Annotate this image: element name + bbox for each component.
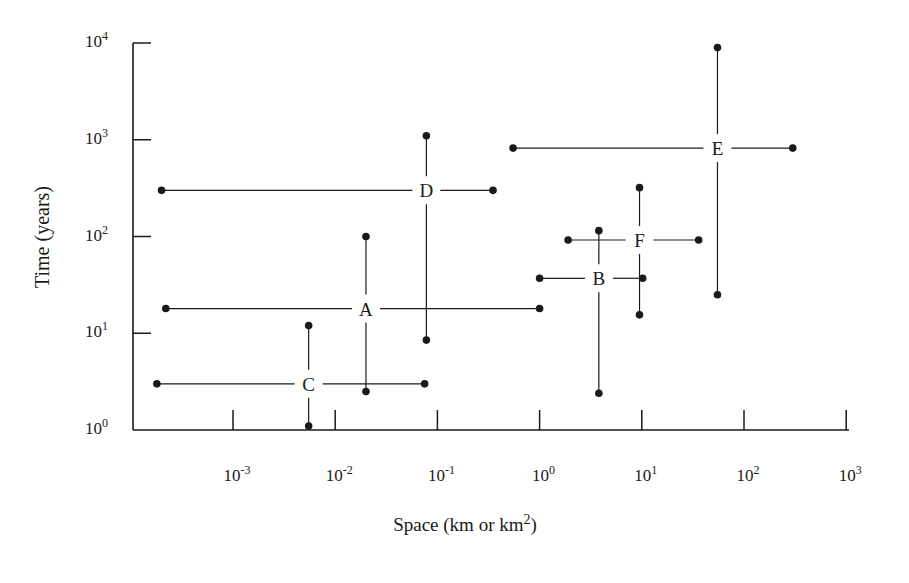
- y-tick-label: 103: [68, 126, 108, 149]
- y-tick-label: 104: [68, 29, 108, 52]
- endpoint-dot: [305, 322, 313, 330]
- x-tick-label: 101: [634, 463, 657, 486]
- endpoint-dot: [489, 187, 497, 195]
- endpoint-dot: [595, 227, 603, 235]
- y-tick-label: 102: [68, 223, 108, 246]
- endpoint-dot: [789, 144, 797, 152]
- range-cross-d: D: [158, 132, 497, 344]
- x-tick-label: 10-2: [326, 463, 353, 486]
- range-cross-f: F: [564, 184, 702, 319]
- x-axis-label-main: Space (km or km: [393, 514, 523, 535]
- endpoint-dot: [714, 44, 722, 52]
- endpoint-dot: [423, 132, 431, 140]
- endpoint-dot: [305, 422, 313, 430]
- y-tick-label: 100: [68, 416, 108, 439]
- endpoint-dot: [695, 236, 703, 244]
- range-cross-a: A: [162, 233, 543, 396]
- y-axis-label: Time (years): [31, 186, 54, 288]
- endpoint-dot: [564, 236, 572, 244]
- endpoint-dot: [636, 184, 644, 192]
- x-tick-label: 103: [839, 463, 862, 486]
- data-groups: ABCDEF: [153, 44, 796, 430]
- x-axis-label-tail: ): [531, 514, 537, 535]
- group-label: A: [359, 299, 373, 320]
- endpoint-dot: [362, 233, 370, 241]
- range-cross-c: C: [153, 322, 428, 430]
- endpoint-dot: [714, 291, 722, 299]
- endpoint-dot: [362, 388, 370, 396]
- group-label: B: [593, 268, 606, 289]
- x-tick-label: 100: [532, 463, 555, 486]
- endpoint-dot: [153, 380, 161, 388]
- x-axis-label: Space (km or km2): [393, 512, 537, 536]
- x-tick-label: 10-3: [224, 463, 251, 486]
- group-label: C: [302, 374, 315, 395]
- axes: [133, 43, 849, 430]
- endpoint-dot: [536, 274, 544, 282]
- endpoint-dot: [509, 144, 517, 152]
- range-cross-b: B: [536, 227, 647, 397]
- endpoint-dot: [421, 380, 429, 388]
- x-tick-label: 10-1: [428, 463, 455, 486]
- y-tick-label: 101: [68, 319, 108, 342]
- endpoint-dot: [536, 305, 544, 313]
- group-label: D: [420, 180, 434, 201]
- endpoint-dot: [595, 389, 603, 397]
- group-label: E: [712, 138, 724, 159]
- x-tick-label: 102: [737, 463, 760, 486]
- endpoint-dot: [158, 187, 166, 195]
- endpoint-dot: [636, 311, 644, 319]
- endpoint-dot: [162, 305, 170, 313]
- range-cross-e: E: [509, 44, 796, 299]
- group-label: F: [634, 230, 645, 251]
- endpoint-dot: [423, 336, 431, 344]
- chart-canvas: ABCDEF: [0, 0, 909, 583]
